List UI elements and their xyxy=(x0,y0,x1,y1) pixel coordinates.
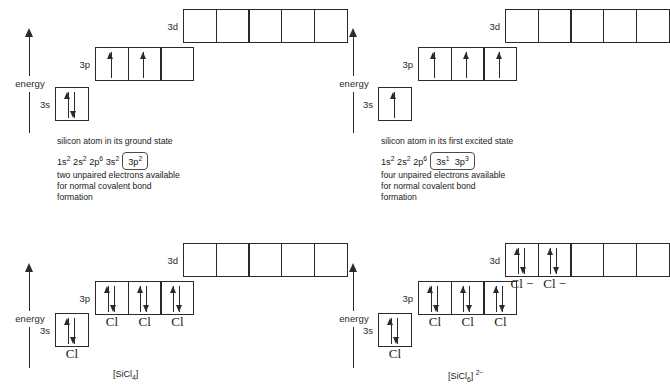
ligand-labels-3p-3: Cl Cl Cl xyxy=(95,314,194,330)
electron-down-arrow-icon xyxy=(432,286,442,312)
orbital-box[interactable] xyxy=(160,47,194,81)
orbital-box[interactable] xyxy=(216,243,250,277)
orbital-label-3p: 3p xyxy=(398,59,413,70)
config-term: 2s2 xyxy=(73,157,87,167)
orbital-label-3d: 3d xyxy=(163,255,178,266)
panel-caption: silicon atom in its first excited state xyxy=(381,136,513,147)
orbital-row-3s-2: 3s xyxy=(358,87,412,121)
energy-axis-line-lower xyxy=(29,327,30,368)
orbital-box[interactable] xyxy=(538,9,572,43)
config-valence-highlight: 3p2 xyxy=(122,152,148,170)
orbital-box[interactable] xyxy=(378,313,412,347)
energy-axis-line-upper xyxy=(353,271,354,311)
ligand-label: Cl xyxy=(55,346,89,362)
panel-caption: silicon atom in its ground state xyxy=(57,136,173,147)
electron-down-arrow-icon xyxy=(174,286,184,312)
energy-axis-line-lower xyxy=(353,327,354,368)
energy-axis-line-upper xyxy=(353,36,354,76)
electron-down-arrow-icon xyxy=(69,318,79,344)
orbital-box[interactable] xyxy=(418,281,452,315)
orbital-box[interactable] xyxy=(281,243,315,277)
orbital-box[interactable] xyxy=(483,281,517,315)
config-plain: 1s2 2s2 2p6 3s2 xyxy=(57,155,119,167)
orbital-box[interactable] xyxy=(160,281,194,315)
orbital-boxes-3s xyxy=(378,87,412,121)
orbital-label-3p: 3p xyxy=(398,293,413,304)
panel-note-line-2: for normal covalent bond xyxy=(57,181,152,192)
orbital-box[interactable] xyxy=(636,243,670,277)
energy-axis-line-lower xyxy=(353,92,354,133)
ligand-labels-3s-4: Cl xyxy=(378,346,412,362)
electron-down-arrow-icon xyxy=(392,318,402,344)
ligand-label: Cl xyxy=(160,314,194,330)
orbital-box[interactable] xyxy=(570,243,604,277)
panel-note-line-1: four unpaired electrons available xyxy=(381,170,505,181)
electron-down-arrow-icon xyxy=(519,248,529,274)
orbital-row-3p-4: 3p xyxy=(398,281,517,315)
orbital-boxes-3d xyxy=(505,243,670,277)
species-label-sicl6: [SiCl6] 2− xyxy=(448,369,484,383)
panel-note-line-3: formation xyxy=(57,192,93,203)
orbital-label-3d: 3d xyxy=(485,255,500,266)
orbital-box[interactable] xyxy=(603,243,637,277)
orbital-box[interactable] xyxy=(183,9,217,43)
orbital-row-3p-1: 3p xyxy=(75,47,194,81)
ligand-labels-3s-3: Cl xyxy=(55,346,89,362)
orbital-box[interactable] xyxy=(95,281,129,315)
orbital-boxes-3s xyxy=(55,313,89,347)
orbital-boxes-3d xyxy=(505,9,670,43)
electron-down-arrow-icon xyxy=(552,248,562,274)
orbital-label-3p: 3p xyxy=(75,293,90,304)
orbital-row-3d-3: 3d xyxy=(163,243,348,277)
electron-up-arrow-icon xyxy=(429,52,439,78)
electron-down-arrow-icon xyxy=(142,286,152,312)
orbital-box[interactable] xyxy=(505,9,539,43)
energy-axis-line-upper xyxy=(29,36,30,76)
orbital-box[interactable] xyxy=(538,243,572,277)
config-term: 2p6 xyxy=(413,157,427,167)
orbital-box[interactable] xyxy=(248,9,282,43)
electron-down-arrow-icon xyxy=(69,92,79,118)
panel-note-line-1: two unpaired electrons available xyxy=(57,170,180,181)
orbital-boxes-3p xyxy=(418,47,517,81)
config-valence-highlight: 3s1 3p3 xyxy=(430,152,475,170)
orbital-box[interactable] xyxy=(570,9,604,43)
orbital-box[interactable] xyxy=(418,47,452,81)
orbital-row-3p-3: 3p xyxy=(75,281,194,315)
electron-up-arrow-icon xyxy=(106,52,116,78)
orbital-box[interactable] xyxy=(378,87,412,121)
orbital-row-3s-4: 3s xyxy=(358,313,412,347)
orbital-boxes-3s xyxy=(378,313,412,347)
ligand-label: Cl xyxy=(128,314,162,330)
orbital-box[interactable] xyxy=(281,9,315,43)
orbital-label-3s: 3s xyxy=(358,99,373,110)
config-term: 3s2 xyxy=(106,157,120,167)
orbital-box[interactable] xyxy=(216,9,250,43)
orbital-box[interactable] xyxy=(603,9,637,43)
orbital-box[interactable] xyxy=(248,243,282,277)
orbital-box[interactable] xyxy=(636,9,670,43)
orbital-box[interactable] xyxy=(55,87,89,121)
ligand-label: Cl xyxy=(483,314,517,330)
orbital-row-3d-2: 3d xyxy=(485,9,670,43)
orbital-box[interactable] xyxy=(483,47,517,81)
orbital-box[interactable] xyxy=(183,243,217,277)
orbital-box[interactable] xyxy=(95,47,129,81)
electron-up-arrow-icon xyxy=(462,52,472,78)
electron-configuration-2: 1s2 2s2 2p6 3s1 3p3 xyxy=(381,152,475,170)
orbital-box[interactable] xyxy=(128,281,162,315)
ligand-label: Cl xyxy=(451,314,485,330)
orbital-row-3p-2: 3p xyxy=(398,47,517,81)
orbital-box[interactable] xyxy=(505,243,539,277)
electron-up-arrow-icon xyxy=(494,52,504,78)
config-plain: 1s2 2s2 2p6 xyxy=(381,155,427,167)
electron-down-arrow-icon xyxy=(109,286,119,312)
species-formula: [SiCl6] 2− xyxy=(448,371,484,381)
config-term: 1s2 xyxy=(57,157,71,167)
orbital-box[interactable] xyxy=(128,47,162,81)
orbital-box[interactable] xyxy=(55,313,89,347)
orbital-boxes-3p xyxy=(418,281,517,315)
orbital-row-3s-3: 3s xyxy=(35,313,89,347)
orbital-box[interactable] xyxy=(451,47,485,81)
orbital-box[interactable] xyxy=(451,281,485,315)
